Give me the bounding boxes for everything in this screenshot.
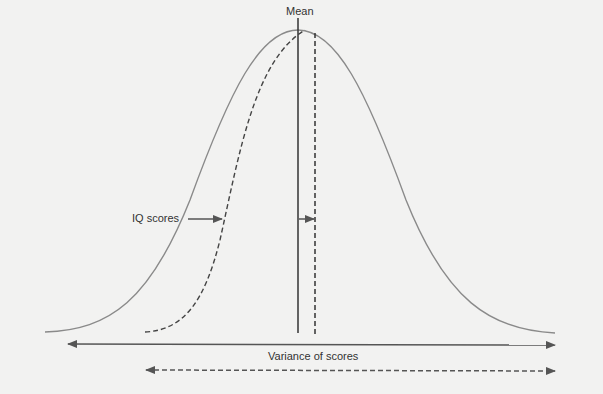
normal-distribution-curve	[45, 30, 555, 333]
shifted-distribution-curve	[145, 30, 305, 332]
variance-label: Variance of scores	[268, 350, 358, 362]
mean-label: Mean	[286, 5, 314, 17]
variance-arrow	[68, 344, 555, 345]
reduced-variance-arrow	[146, 370, 555, 371]
diagram-canvas	[0, 0, 603, 394]
iq-scores-label: IQ scores	[132, 212, 179, 224]
